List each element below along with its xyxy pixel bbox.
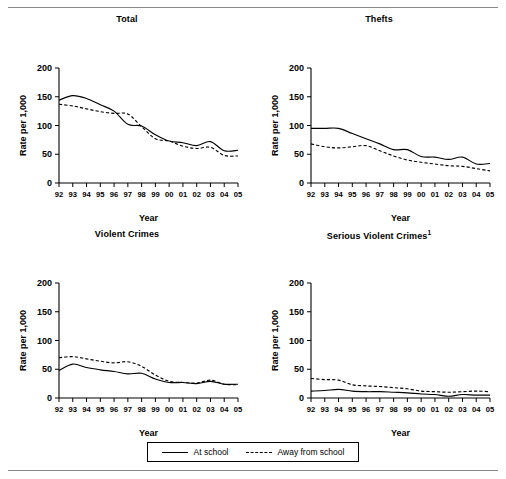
x-axis-title: Year <box>139 428 159 438</box>
x-tick-label: 03 <box>206 190 214 199</box>
x-tick-label: 96 <box>362 190 370 199</box>
legend-item-at-school: At school <box>162 447 229 457</box>
y-tick-label: 200 <box>289 63 304 73</box>
x-tick-label: 96 <box>110 405 118 414</box>
x-tick-label: 97 <box>376 405 384 414</box>
y-axis-title: Rate per 1,000 <box>270 95 280 156</box>
x-tick-label: 93 <box>69 190 77 199</box>
y-tick-label: 100 <box>37 336 52 346</box>
x-tick-label: 99 <box>403 405 411 414</box>
x-tick-label: 94 <box>82 405 91 414</box>
x-tick-label: 01 <box>431 190 440 199</box>
y-tick-label: 150 <box>37 92 52 102</box>
y-tick-label: 0 <box>47 393 52 403</box>
x-tick-label: 01 <box>179 405 188 414</box>
x-tick-label: 01 <box>179 190 188 199</box>
x-tick-label: 04 <box>220 405 229 414</box>
x-tick-label: 02 <box>192 190 200 199</box>
x-tick-label: 99 <box>403 190 411 199</box>
series-line-at-school <box>59 364 238 384</box>
chart-legend: At school Away from school <box>147 442 359 462</box>
x-tick-label: 93 <box>321 405 329 414</box>
chart-plot: 0501001502009293949596979899000102030405… <box>0 28 254 228</box>
footnote-marker: 1 <box>427 229 431 236</box>
bottom-divider <box>8 470 498 471</box>
x-tick-label: 96 <box>110 190 118 199</box>
series-line-at-school <box>311 389 490 396</box>
chart-plot: 0501001502009293949596979899000102030405… <box>0 243 254 443</box>
x-axis-title: Year <box>391 213 411 223</box>
x-tick-label: 05 <box>486 405 495 414</box>
x-tick-label: 96 <box>362 405 370 414</box>
y-tick-label: 200 <box>37 278 52 288</box>
y-tick-label: 200 <box>289 278 304 288</box>
x-tick-label: 98 <box>389 405 397 414</box>
x-tick-label: 01 <box>431 405 440 414</box>
x-tick-label: 04 <box>472 190 481 199</box>
x-tick-label: 97 <box>124 190 132 199</box>
x-tick-label: 98 <box>137 405 145 414</box>
y-tick-label: 50 <box>294 149 304 159</box>
top-divider <box>8 7 498 8</box>
x-tick-label: 93 <box>321 190 329 199</box>
y-tick-label: 50 <box>42 364 52 374</box>
x-tick-label: 00 <box>417 405 425 414</box>
dashed-line-swatch-icon <box>246 452 272 453</box>
series-line-at-school <box>311 128 490 164</box>
x-tick-label: 92 <box>307 190 315 199</box>
x-tick-label: 03 <box>206 405 214 414</box>
x-tick-label: 04 <box>472 405 481 414</box>
x-tick-label: 98 <box>137 190 145 199</box>
y-tick-label: 100 <box>289 121 304 131</box>
y-axis-title: Rate per 1,000 <box>18 310 28 371</box>
x-tick-label: 00 <box>417 190 425 199</box>
y-axis-title: Rate per 1,000 <box>270 310 280 371</box>
x-tick-label: 02 <box>192 405 200 414</box>
chart-plot: 0501001502009293949596979899000102030405… <box>252 243 506 443</box>
solid-line-swatch-icon <box>162 452 188 453</box>
x-tick-label: 02 <box>444 190 452 199</box>
x-tick-label: 93 <box>69 405 77 414</box>
y-tick-label: 50 <box>294 364 304 374</box>
x-tick-label: 92 <box>55 405 63 414</box>
x-tick-label: 97 <box>124 405 132 414</box>
y-tick-label: 0 <box>299 178 304 188</box>
x-tick-label: 99 <box>151 190 159 199</box>
legend-label: Away from school <box>278 447 345 457</box>
x-tick-label: 94 <box>334 190 343 199</box>
x-tick-label: 97 <box>376 190 384 199</box>
y-tick-label: 0 <box>299 393 304 403</box>
chart-title: Total <box>0 14 254 24</box>
series-line-away-from-school <box>311 378 490 392</box>
x-tick-label: 98 <box>389 190 397 199</box>
y-tick-label: 150 <box>289 92 304 102</box>
y-tick-label: 200 <box>37 63 52 73</box>
y-tick-label: 100 <box>37 121 52 131</box>
legend-item-away-from-school: Away from school <box>246 447 345 457</box>
chart-title: Thefts <box>252 14 506 24</box>
x-tick-label: 02 <box>444 405 452 414</box>
x-tick-label: 05 <box>234 405 243 414</box>
y-tick-label: 150 <box>37 307 52 317</box>
x-axis-title: Year <box>391 428 411 438</box>
x-tick-label: 95 <box>96 405 105 414</box>
x-tick-label: 04 <box>220 190 229 199</box>
x-tick-label: 94 <box>82 190 91 199</box>
chart-title: Violent Crimes <box>0 229 254 239</box>
chart-plot: 0501001502009293949596979899000102030405… <box>252 28 506 228</box>
series-line-at-school <box>59 96 238 152</box>
y-tick-label: 150 <box>289 307 304 317</box>
x-tick-label: 92 <box>55 190 63 199</box>
x-tick-label: 00 <box>165 405 173 414</box>
y-tick-label: 0 <box>47 178 52 188</box>
x-tick-label: 03 <box>458 190 466 199</box>
y-axis-title: Rate per 1,000 <box>18 95 28 156</box>
y-tick-label: 100 <box>289 336 304 346</box>
chart-title: Serious Violent Crimes1 <box>252 229 506 241</box>
x-axis-title: Year <box>139 213 159 223</box>
x-tick-label: 05 <box>234 190 243 199</box>
x-tick-label: 94 <box>334 405 343 414</box>
x-tick-label: 95 <box>96 190 105 199</box>
x-tick-label: 95 <box>348 190 357 199</box>
x-tick-label: 03 <box>458 405 466 414</box>
